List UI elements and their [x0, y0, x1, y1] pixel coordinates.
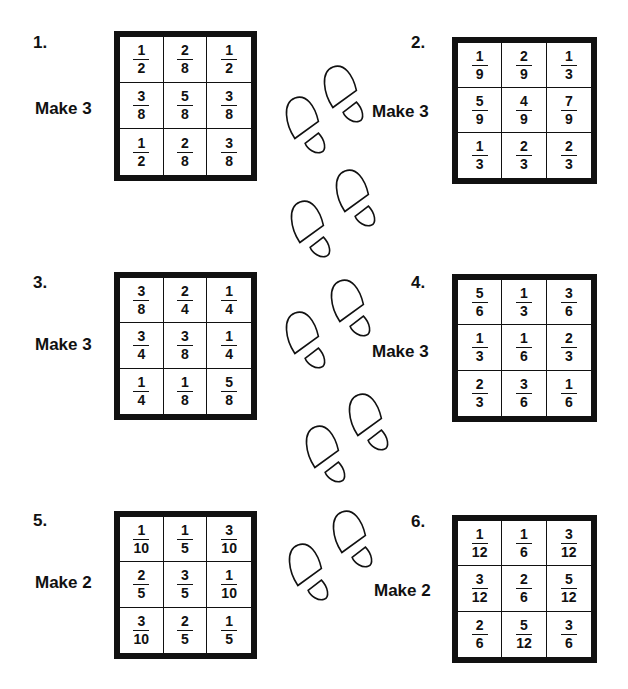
numerator: 3 — [177, 568, 193, 585]
denominator: 8 — [225, 106, 233, 122]
denominator: 12 — [561, 544, 577, 560]
fraction: 59 — [472, 94, 488, 127]
problem-number: 6. — [411, 512, 425, 532]
fraction: 58 — [177, 89, 193, 122]
grid-cell: 36 — [502, 371, 546, 416]
grid-cell: 14 — [207, 278, 251, 323]
denominator: 5 — [137, 585, 145, 601]
grid-cell: 310 — [120, 608, 164, 653]
denominator: 3 — [565, 66, 573, 82]
grid-cell: 13 — [547, 43, 591, 88]
denominator: 8 — [137, 106, 145, 122]
grid-cell: 29 — [502, 43, 546, 88]
fraction: 38 — [177, 329, 193, 362]
denominator: 9 — [520, 111, 528, 127]
grid-cell: 59 — [458, 88, 502, 133]
denominator: 3 — [476, 156, 484, 172]
denominator: 4 — [225, 346, 233, 362]
fraction: 36 — [561, 286, 577, 319]
problem-instruction: Make 2 — [374, 581, 431, 601]
problem-instruction: Make 3 — [372, 342, 429, 362]
fraction: 14 — [221, 284, 237, 317]
fraction: 23 — [561, 139, 577, 172]
denominator: 5 — [181, 631, 189, 647]
numerator: 1 — [472, 49, 488, 66]
fraction: 512 — [561, 572, 577, 605]
denominator: 6 — [565, 303, 573, 319]
grid-cell: 16 — [502, 325, 546, 370]
fraction: 18 — [177, 375, 193, 408]
fraction: 36 — [516, 377, 532, 410]
fraction: 79 — [561, 94, 577, 127]
numerator: 3 — [133, 284, 149, 301]
grid-cell: 38 — [164, 323, 208, 368]
fraction: 19 — [472, 49, 488, 82]
numerator: 2 — [516, 49, 532, 66]
grid-cell: 58 — [164, 83, 208, 129]
numerator: 2 — [177, 284, 193, 301]
denominator: 6 — [520, 589, 528, 605]
grid-cell: 13 — [502, 280, 546, 325]
denominator: 4 — [225, 301, 233, 317]
numerator: 2 — [561, 331, 577, 348]
numerator: 2 — [472, 377, 488, 394]
grid-cell: 36 — [547, 612, 591, 657]
numerator: 2 — [177, 136, 193, 153]
grid-cell: 38 — [120, 83, 164, 129]
denominator: 8 — [181, 60, 189, 76]
fraction: 38 — [221, 89, 237, 122]
grid-cell: 56 — [458, 280, 502, 325]
denominator: 8 — [225, 153, 233, 169]
numerator: 1 — [221, 43, 237, 60]
numerator: 3 — [472, 572, 488, 589]
fraction: 110 — [133, 523, 149, 556]
denominator: 8 — [137, 301, 145, 317]
numerator: 1 — [221, 284, 237, 301]
problem-instruction: Make 3 — [372, 102, 429, 122]
numerator: 3 — [221, 136, 237, 153]
grid-cell: 16 — [547, 371, 591, 416]
fraction: 56 — [472, 286, 488, 319]
numerator: 1 — [561, 49, 577, 66]
numerator: 1 — [516, 331, 532, 348]
fraction-grid: 1101531025351103102515 — [114, 511, 257, 659]
fraction: 38 — [133, 89, 149, 122]
numerator: 1 — [561, 377, 577, 394]
fraction: 26 — [516, 572, 532, 605]
fraction: 24 — [177, 284, 193, 317]
numerator: 1 — [472, 139, 488, 156]
fraction: 12 — [133, 43, 149, 76]
numerator: 2 — [516, 139, 532, 156]
denominator: 8 — [181, 106, 189, 122]
fraction: 23 — [561, 331, 577, 364]
numerator: 1 — [221, 568, 237, 585]
numerator: 3 — [221, 523, 237, 540]
denominator: 2 — [137, 60, 145, 76]
fraction-grid: 11216312312265122651236 — [452, 515, 597, 663]
grid-cell: 512 — [502, 612, 546, 657]
problem-instruction: Make 3 — [35, 99, 92, 119]
grid-cell: 19 — [458, 43, 502, 88]
fraction: 13 — [516, 286, 532, 319]
fraction: 16 — [516, 331, 532, 364]
numerator: 1 — [133, 375, 149, 392]
fraction: 16 — [516, 527, 532, 560]
numerator: 7 — [561, 94, 577, 111]
denominator: 8 — [181, 346, 189, 362]
grid-cell: 12 — [120, 129, 164, 175]
denominator: 3 — [476, 394, 484, 410]
fraction: 12 — [221, 43, 237, 76]
denominator: 5 — [225, 631, 233, 647]
fraction: 25 — [133, 568, 149, 601]
fraction: 13 — [561, 49, 577, 82]
numerator: 1 — [221, 614, 237, 631]
grid-cell: 25 — [120, 562, 164, 607]
denominator: 3 — [520, 156, 528, 172]
denominator: 9 — [520, 66, 528, 82]
numerator: 1 — [133, 43, 149, 60]
denominator: 10 — [221, 540, 237, 556]
denominator: 8 — [181, 392, 189, 408]
grid-cell: 23 — [502, 133, 546, 178]
numerator: 3 — [516, 377, 532, 394]
grid-cell: 14 — [120, 369, 164, 414]
